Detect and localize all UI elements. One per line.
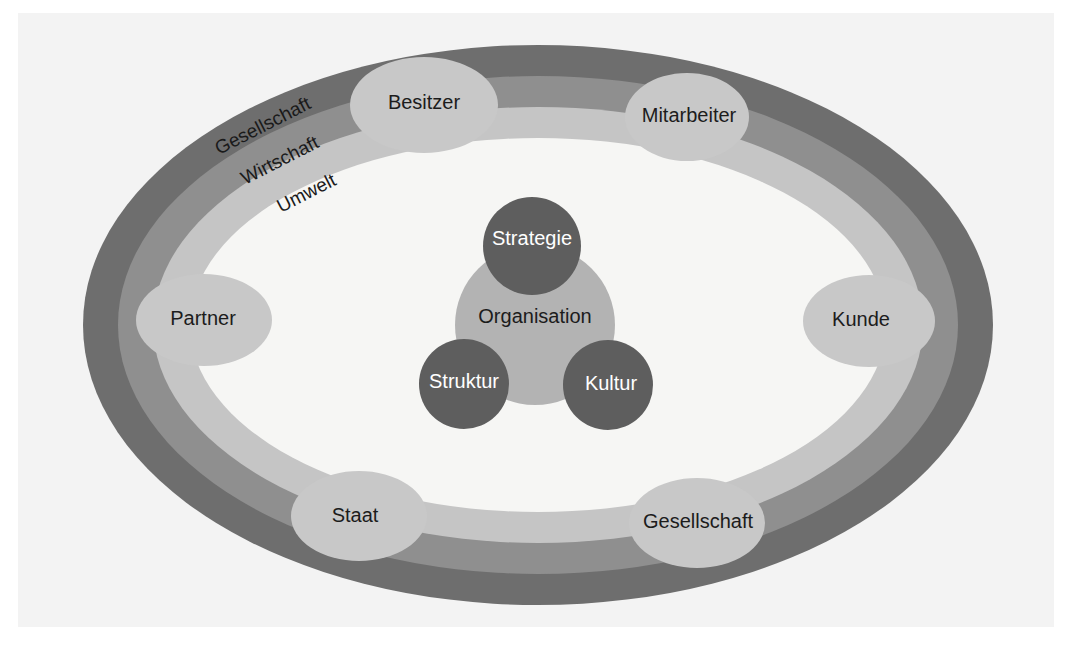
struktur-label: Struktur bbox=[429, 370, 499, 392]
stakeholder-mitarbeiter[interactable]: Mitarbeiter bbox=[625, 73, 749, 161]
organisation-label: Organisation bbox=[478, 305, 591, 327]
organisation-stakeholder-diagram: Gesellschaft Wirtschaft Umwelt Organisat… bbox=[0, 0, 1076, 648]
stakeholder-gesellschaft[interactable]: Gesellschaft bbox=[629, 478, 765, 568]
stakeholder-partner-label: Partner bbox=[170, 307, 236, 329]
stakeholder-gesellschaft-label: Gesellschaft bbox=[643, 510, 753, 532]
stakeholder-besitzer[interactable]: Besitzer bbox=[350, 57, 498, 153]
stakeholder-partner[interactable]: Partner bbox=[136, 274, 272, 366]
diagram-canvas: Gesellschaft Wirtschaft Umwelt Organisat… bbox=[0, 0, 1076, 648]
stakeholder-kunde[interactable]: Kunde bbox=[803, 275, 935, 367]
stakeholder-staat[interactable]: Staat bbox=[291, 471, 427, 561]
stakeholder-kunde-label: Kunde bbox=[832, 308, 890, 330]
stakeholder-mitarbeiter-label: Mitarbeiter bbox=[642, 104, 737, 126]
stakeholder-staat-label: Staat bbox=[332, 504, 379, 526]
strategie-label: Strategie bbox=[492, 227, 572, 249]
kultur-label: Kultur bbox=[585, 372, 638, 394]
stakeholder-besitzer-label: Besitzer bbox=[388, 91, 461, 113]
